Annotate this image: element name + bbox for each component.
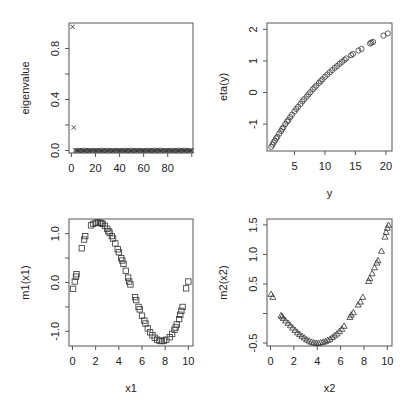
- x-axis-label: x1: [125, 382, 137, 394]
- y-tick-label: 0.4: [49, 92, 61, 107]
- x-tick-label: 20: [89, 162, 101, 174]
- panel-m2-x2: 0246810-0.50.51.01.5m2(x2)x2: [217, 217, 393, 394]
- marker-square: [183, 286, 188, 291]
- x-tick-label: 2: [93, 355, 99, 367]
- x-tick-label: 2: [291, 355, 297, 367]
- x-tick-label: 6: [139, 355, 145, 367]
- figure: 0204060800.00.40.8eigenvalue 5101520-101…: [0, 0, 414, 412]
- marker-circle: [385, 31, 390, 36]
- x-tick-label: 6: [338, 355, 344, 367]
- plot-frame: [69, 23, 193, 153]
- marker-square: [186, 279, 191, 284]
- panel-eta-y: 5101520-1012eta(y)y: [217, 23, 392, 199]
- x-tick-label: 0: [69, 355, 75, 367]
- x-tick-label: 5: [291, 160, 297, 172]
- marker-circle: [359, 46, 364, 51]
- y-tick-label: -1: [247, 119, 259, 129]
- x-axis-label: x2: [324, 382, 336, 394]
- marker-triangle: [383, 229, 389, 234]
- y-tick-label: 0.8: [49, 41, 61, 56]
- panel-eigenvalue: 0204060800.00.40.8eigenvalue: [19, 23, 194, 174]
- x-tick-label: 8: [162, 355, 168, 367]
- panel-m1-x1: 0246810-1.00.01.0m1(x1)x1: [19, 219, 194, 394]
- marker-x: [70, 25, 74, 29]
- x-tick-label: 0: [68, 162, 74, 174]
- y-tick-label: 1.0: [49, 226, 61, 241]
- x-tick-label: 15: [349, 160, 361, 172]
- x-tick-label: 40: [113, 162, 125, 174]
- y-tick-label: 2: [247, 26, 259, 32]
- marker-square: [79, 246, 84, 251]
- scatterplot-matrix: 0204060800.00.40.8eigenvalue 5101520-101…: [0, 0, 414, 412]
- y-axis-label: m2(x2): [217, 265, 229, 299]
- y-tick-label: 1: [247, 58, 259, 64]
- x-tick-label: 10: [319, 160, 331, 172]
- y-tick-label: 1.5: [247, 217, 259, 232]
- x-axis-label: y: [327, 187, 333, 199]
- plot-frame: [267, 23, 392, 151]
- marker-triangle: [360, 294, 366, 299]
- y-tick-label: 0.0: [49, 143, 61, 158]
- y-axis-label: m1(x1): [19, 265, 31, 299]
- x-tick-label: 0: [267, 355, 273, 367]
- y-tick-label: 0: [247, 89, 259, 95]
- marker-triangle: [378, 248, 384, 253]
- marker-x: [72, 125, 76, 129]
- y-tick-label: 0.5: [247, 276, 259, 291]
- x-tick-label: 4: [314, 355, 320, 367]
- x-tick-label: 10: [182, 355, 194, 367]
- x-tick-label: 4: [116, 355, 122, 367]
- y-tick-label: -0.5: [247, 334, 259, 353]
- y-tick-label: 0.0: [49, 275, 61, 290]
- y-axis-label: eigenvalue: [19, 61, 31, 114]
- x-tick-label: 80: [162, 162, 174, 174]
- marker-triangle: [268, 291, 274, 296]
- y-tick-label: -1.0: [49, 322, 61, 341]
- marker-triangle: [369, 270, 375, 275]
- x-tick-label: 8: [361, 355, 367, 367]
- marker-circle: [356, 48, 361, 53]
- plot-frame: [267, 219, 392, 346]
- marker-circle: [370, 39, 375, 44]
- marker-square: [123, 268, 128, 273]
- x-tick-label: 60: [138, 162, 150, 174]
- y-axis-label: eta(y): [217, 73, 229, 101]
- x-tick-label: 20: [380, 160, 392, 172]
- marker-square: [70, 286, 75, 291]
- x-tick-label: 10: [381, 355, 393, 367]
- y-tick-label: 1.0: [247, 247, 259, 262]
